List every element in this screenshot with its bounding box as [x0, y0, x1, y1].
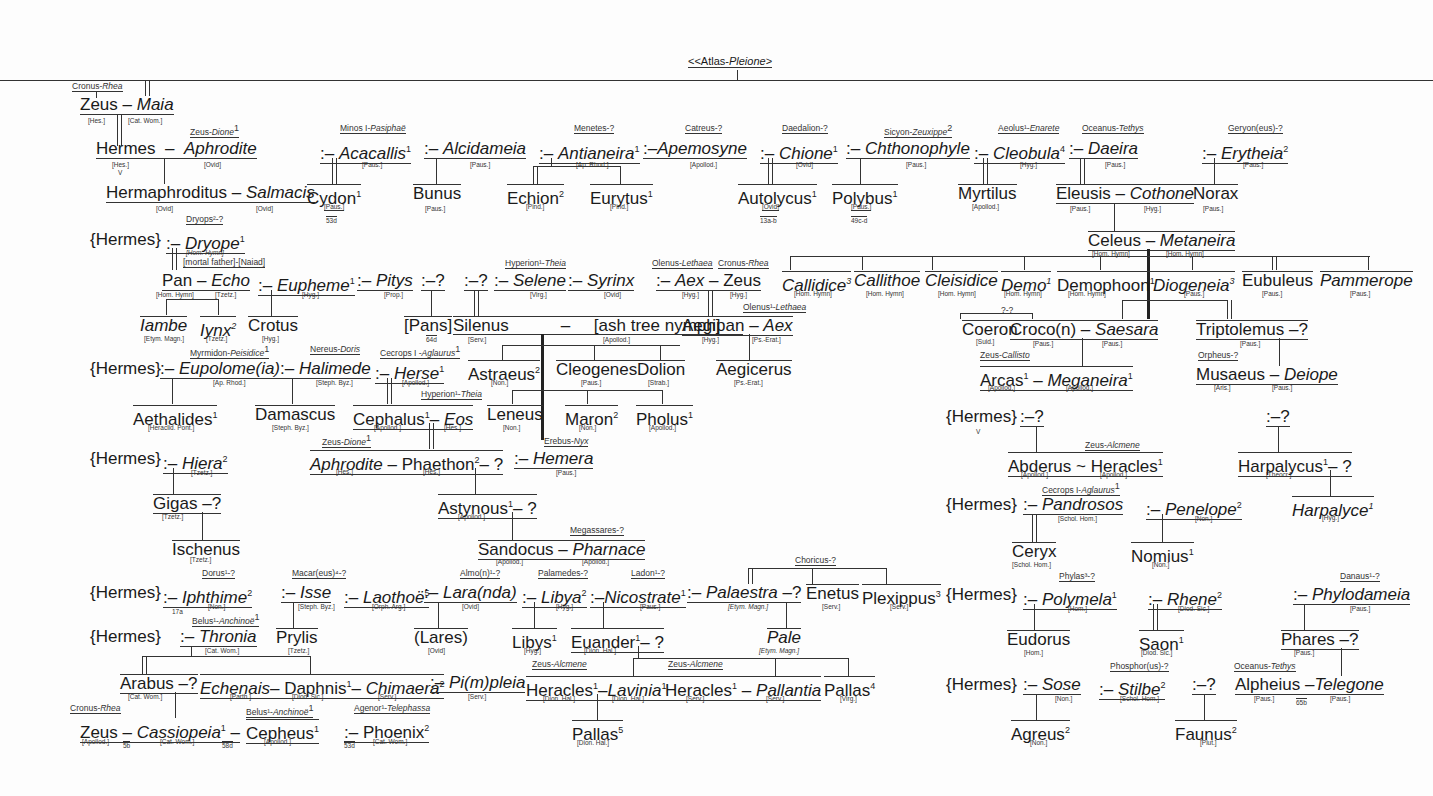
name-text: :–: [464, 271, 478, 290]
female-name: Enarete: [1030, 123, 1060, 133]
sibling-line: [142, 656, 310, 657]
superscript-index: 1: [455, 344, 460, 354]
source-citation: V: [976, 428, 980, 435]
source-citation: 49c-d: [851, 216, 867, 224]
source-citation: [Paus.]: [581, 379, 601, 386]
person-astynous: Astynous1– ?: [438, 494, 537, 519]
parents-label: Orpheus-?: [1198, 351, 1238, 361]
superscript-index: 1: [732, 681, 737, 691]
superscript-index: 1: [892, 189, 897, 199]
person-triptolemus: Triptolemus –?: [1196, 320, 1308, 340]
source-citation: [Tzetz.]: [162, 513, 183, 520]
name-text: Silenus: [453, 316, 509, 335]
descent-line: [534, 602, 535, 628]
superscript-index: 1: [681, 588, 686, 598]
parents-label: Almo(n)¹-?: [460, 569, 500, 579]
female-name: Tethys: [1119, 123, 1144, 133]
source-citation: [Tzetz.]: [206, 335, 227, 342]
name-text: –: [123, 95, 132, 114]
name-text: Olenus-: [652, 258, 682, 268]
parents-label: Phylas³-?: [1059, 572, 1095, 582]
female-name: Eupolome(ia): [179, 359, 280, 378]
double-descent-line: [429, 423, 434, 449]
name-text: :–: [1266, 407, 1280, 426]
person-hemera: :– Hemera: [514, 450, 593, 469]
source-citation: [Aris.]: [1214, 384, 1231, 391]
source-citation: [Steph. Byz.]: [316, 379, 353, 386]
name-text: Gigas: [153, 494, 197, 513]
descent-line: [786, 602, 787, 628]
source-citation: [Apollod.]: [264, 738, 291, 745]
source-citation: [Hes.]: [423, 468, 440, 475]
name-text: :–: [357, 271, 371, 290]
female-name: Alcmene: [1107, 440, 1140, 450]
female-name: Metaneira: [1160, 231, 1236, 250]
female-name: Deiope: [1284, 365, 1338, 384]
name-text: –: [782, 583, 791, 602]
descent-line: [173, 468, 174, 494]
person-unknown: :–?: [464, 272, 488, 291]
source-citation: [Serv.]: [890, 603, 908, 610]
source-citation: [Pind.]: [610, 203, 628, 210]
name-text: Zeus-: [322, 437, 344, 447]
person-pandrosos: :– Pandrosos: [1023, 496, 1123, 515]
name-text: :–: [1020, 407, 1034, 426]
source-citation: [Ps.-Erat.]: [752, 336, 781, 343]
superscript-index: 2: [1217, 590, 1222, 600]
source-citation: [Diod. Sic.]: [1178, 605, 1209, 612]
descent-line: [293, 602, 294, 628]
female-name: Chthonophyle: [865, 139, 970, 158]
sibling-line: [166, 299, 218, 300]
female-name: Maia: [137, 95, 174, 114]
source-citation: [Non.]: [579, 424, 596, 431]
female-name: Peisidice: [230, 348, 264, 358]
person-croco: Croco(n) – Saesara: [1010, 320, 1158, 340]
source-citation: [Paus.]: [1102, 340, 1122, 347]
source-citation: [Apollod.]: [1066, 384, 1093, 391]
female-name: Rhea: [102, 81, 122, 91]
name-text: ?: [1342, 457, 1351, 476]
name-text: –: [232, 183, 241, 202]
female-name: Erytheia: [1221, 144, 1283, 163]
parents-label: Zeus-Callisto: [980, 351, 1030, 361]
parents-label: Macar(eus)⁴-?: [292, 569, 346, 579]
descent-line: [1082, 338, 1083, 366]
sibling-line: [748, 568, 886, 569]
source-citation: [Apollod.]: [649, 424, 676, 431]
person-pale: Pale: [767, 628, 801, 647]
descent-line: [502, 345, 503, 360]
person-hermes: Hermes – Aphrodite: [96, 140, 257, 159]
source-citation: [Non.]: [1152, 561, 1169, 568]
source-citation: [Hom. Hymn]: [156, 291, 194, 298]
source-citation: [Tzetz.]: [215, 291, 236, 298]
superscript-index: 1: [1128, 371, 1133, 381]
name-text: Belus¹-: [246, 707, 273, 717]
person-syrinx: :– Syrinx: [568, 272, 634, 291]
person-silenus: Silenus – [ash tree nymph]: [453, 316, 720, 335]
name-text: :–: [846, 139, 860, 158]
source-citation: V: [118, 169, 122, 176]
descent-line: [597, 694, 598, 720]
name-text: Cecrops I -: [380, 348, 422, 358]
name-text: –: [202, 494, 211, 513]
source-citation: [Apollod.]: [988, 384, 1015, 391]
parents-label: Zeus-Alcmene: [668, 660, 723, 670]
name-text: Zeus: [723, 271, 761, 290]
group-lares: (Lares): [414, 628, 468, 647]
person-musaeus: Musaeus – Deiope: [1196, 366, 1338, 385]
female-name: Palaestra: [706, 583, 778, 602]
parents-label: Choricus-?: [795, 556, 836, 566]
double-descent-line: [474, 290, 479, 316]
person-zeus: Zeus – Maia: [80, 96, 174, 115]
source-citation: [Diod. Sic.]: [292, 693, 323, 700]
source-citation: [Hom. Hymn]: [938, 290, 976, 297]
female-name: Telegone: [1314, 675, 1383, 694]
descent-line: [638, 646, 639, 658]
name-text: ?: [478, 271, 487, 290]
source-citation: [Serv.]: [468, 693, 486, 700]
name-text: Agenor¹-: [354, 703, 387, 713]
name-text: Cronus-: [718, 258, 748, 268]
female-name: Aex: [675, 271, 704, 290]
parents-label: Sicyon-Zeuxippe2: [884, 124, 952, 138]
parents-label: Menetes-?: [574, 124, 614, 134]
